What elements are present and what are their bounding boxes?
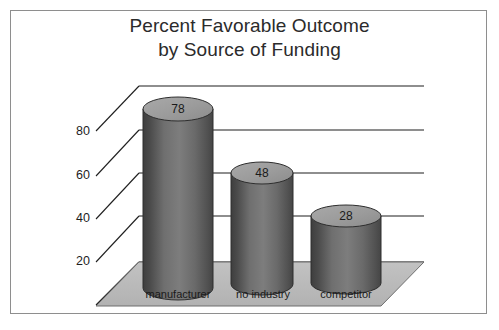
value-label-manufacturer: 78 xyxy=(148,102,208,116)
y-tick-label-80: 80 xyxy=(56,124,90,138)
depth-line-60 xyxy=(96,173,139,219)
bar-no-industry[interactable] xyxy=(231,162,293,295)
plot-area: 80 60 40 20 78 48 28 manufacturer no ind… xyxy=(0,0,499,330)
category-label-competitor: competitor xyxy=(300,288,392,300)
y-tick-label-20: 20 xyxy=(56,254,90,268)
category-label-manufacturer: manufacturer xyxy=(128,288,228,300)
value-label-competitor: 28 xyxy=(316,209,376,223)
y-tick-label-60: 60 xyxy=(56,168,90,182)
bar-manufacturer-body xyxy=(143,109,213,300)
depth-line-80 xyxy=(96,130,139,176)
depth-line-100 xyxy=(96,86,139,131)
bar-no-industry-body xyxy=(231,173,293,295)
bar-manufacturer[interactable] xyxy=(143,97,213,300)
chart-graphics xyxy=(0,0,499,330)
category-label-no-industry: no industry xyxy=(215,288,311,300)
chart-figure: Percent Favorable Outcome by Source of F… xyxy=(0,0,499,330)
bar-competitor-body xyxy=(311,216,381,294)
y-tick-label-40: 40 xyxy=(56,211,90,225)
value-label-no-industry: 48 xyxy=(232,166,292,180)
depth-line-40 xyxy=(96,216,139,262)
